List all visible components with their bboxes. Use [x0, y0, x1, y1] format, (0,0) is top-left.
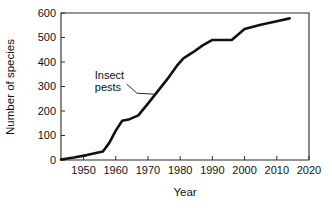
x-axis-tick-labels: 19501960197019801990200020102020	[71, 164, 321, 176]
annotation-line: pests	[95, 81, 122, 93]
y-axis-tick-labels: 0100200300400500600	[38, 7, 56, 166]
x-axis-title: Year	[173, 186, 196, 198]
chart-figure: 0100200300400500600 19501960197019801990…	[0, 0, 332, 208]
x-tick-label-1980: 1980	[168, 164, 192, 176]
annotation-group: Insectpests	[95, 69, 156, 94]
x-tick-label-2000: 2000	[232, 164, 256, 176]
y-tick-label-200: 200	[38, 105, 56, 117]
annotation-leader-insect-pests	[127, 84, 156, 94]
annotation-line: Insect	[95, 69, 124, 81]
x-tick-label-1950: 1950	[71, 164, 95, 176]
annotation-label-insect-pests: Insectpests	[95, 69, 124, 93]
y-tick-label-400: 400	[38, 56, 56, 68]
chart-svg: 0100200300400500600 19501960197019801990…	[0, 0, 332, 208]
y-tick-label-0: 0	[50, 154, 56, 166]
x-tick-label-2020: 2020	[297, 164, 321, 176]
x-tick-label-2010: 2010	[265, 164, 289, 176]
x-tick-label-1960: 1960	[104, 164, 128, 176]
y-tick-label-500: 500	[38, 31, 56, 43]
x-tick-label-1970: 1970	[136, 164, 160, 176]
y-axis-tick-marks	[61, 13, 65, 160]
y-tick-label-600: 600	[38, 7, 56, 19]
y-tick-label-300: 300	[38, 80, 56, 92]
x-axis-tick-marks	[84, 156, 309, 160]
x-tick-label-1990: 1990	[200, 164, 224, 176]
y-axis-title: Number of species	[4, 39, 16, 135]
y-tick-label-100: 100	[38, 129, 56, 141]
